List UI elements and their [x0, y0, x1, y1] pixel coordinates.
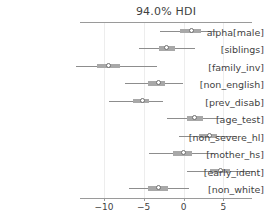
x-axis-line — [80, 198, 252, 199]
y-axis-label: [non_english] — [186, 79, 264, 90]
x-tick-mark — [223, 198, 224, 201]
y-axis-label: alpha[male] — [186, 26, 264, 37]
y-axis-label: [age_test] — [186, 114, 264, 125]
y-axis-label: [early_ident] — [186, 166, 264, 177]
x-tick-mark — [184, 198, 185, 201]
x-tick-mark — [104, 198, 105, 201]
y-axis-label: [family_inv] — [186, 61, 264, 72]
x-tick-mark — [144, 198, 145, 201]
x-tick-label: −5 — [137, 202, 150, 212]
y-axis-label: [non_white] — [186, 184, 264, 195]
y-axis-label: [siblings] — [186, 44, 264, 55]
y-axis-label: [mother_hs] — [186, 149, 264, 160]
x-tick-label: −10 — [94, 202, 113, 212]
point-estimate-marker — [156, 185, 161, 190]
x-tick-label: 0 — [181, 202, 187, 212]
chart-title: 94.0% HDI — [80, 5, 252, 18]
forest-plot: 94.0% HDI alpha[male][siblings][family_i… — [0, 0, 264, 222]
x-tick-label: 5 — [220, 202, 226, 212]
y-axis-label: [prev_disab] — [186, 96, 264, 107]
y-axis-label: [non_severe_hl] — [186, 131, 264, 142]
